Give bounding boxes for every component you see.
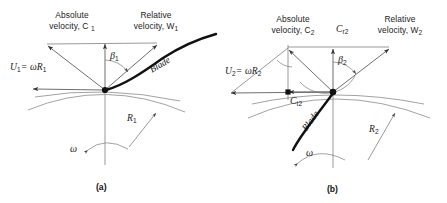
vector-c1 — [48, 46, 105, 90]
label-beta2: β2 — [338, 55, 347, 67]
label-relative-velocity-w1: Relative velocity, W1 — [112, 10, 200, 32]
label-relative-velocity-w2: Relative velocity, W2 — [355, 14, 445, 36]
inner-arc-b — [252, 95, 424, 104]
vertex-angle-arc-b — [300, 76, 355, 93]
label-r2: R2 — [369, 124, 379, 136]
label-omega-b: ω — [306, 148, 313, 159]
label-beta1: β1 — [110, 51, 119, 63]
panel-b-geometry — [231, 45, 430, 168]
vector-c2 — [289, 50, 333, 92]
omega-arc-a — [88, 143, 128, 150]
label-absolute-velocity-c2: Absolute velocity, C2 — [249, 14, 337, 36]
ct2-tip-marker — [285, 89, 290, 94]
label-omega-a: ω — [70, 144, 77, 155]
label-absolute-velocity-c1: Absolute velocity, C 11 — [28, 10, 116, 32]
label-ct2: Ct2 — [290, 96, 302, 108]
caption-panel-a: (a) — [96, 182, 107, 192]
alpha2-angle-arc — [277, 60, 292, 67]
outer-arc-b — [248, 99, 430, 118]
label-blade-speed-u2: U2= ωR2 — [225, 66, 262, 78]
panel-a-geometry — [28, 34, 216, 165]
triangle-top-a — [47, 43, 157, 44]
vertex-dot-b — [330, 89, 337, 96]
label-r1: R1 — [127, 113, 137, 125]
vector-u1 — [33, 89, 105, 90]
figure-root: Absolute velocity, C 11 Relative velocit… — [0, 0, 447, 203]
caption-panel-b: (b) — [327, 184, 338, 194]
label-blade-speed-u1: U1= ωR1 — [10, 62, 47, 74]
vertex-dot-a — [102, 87, 108, 93]
label-cr2: Cr2 — [336, 24, 349, 36]
r2-leader — [368, 113, 395, 160]
inner-arc-a — [35, 92, 180, 101]
